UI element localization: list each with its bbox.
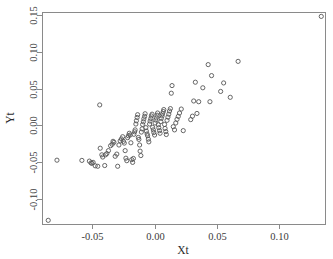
- data-point: [80, 158, 84, 162]
- y-tick-label: -0.05: [28, 152, 39, 174]
- data-point: [147, 140, 151, 144]
- data-point: [181, 129, 185, 133]
- x-tick-label: 0.10: [270, 231, 288, 242]
- data-point: [169, 91, 173, 95]
- plot-canvas: -0.050.000.050.10-0.10-0.050.000.050.100…: [0, 0, 333, 259]
- x-axis-title: Xt: [177, 244, 189, 256]
- data-point: [228, 95, 232, 99]
- ticks-group: -0.050.000.050.10-0.10-0.050.000.050.100…: [28, 6, 289, 242]
- data-point: [170, 83, 174, 87]
- data-point: [219, 89, 223, 93]
- y-tick-label: 0.05: [28, 80, 39, 98]
- data-point: [103, 163, 107, 167]
- data-point: [179, 107, 183, 111]
- data-point: [116, 164, 120, 168]
- data-point: [138, 143, 142, 147]
- data-point: [201, 86, 205, 90]
- data-point: [46, 218, 50, 222]
- data-point: [138, 149, 142, 153]
- data-point: [206, 63, 210, 67]
- data-point: [319, 14, 323, 18]
- data-point: [195, 111, 199, 115]
- data-point: [208, 100, 212, 104]
- y-tick-label: 0.00: [28, 116, 39, 134]
- data-point: [129, 141, 133, 145]
- data-point: [222, 81, 226, 85]
- data-point: [236, 59, 240, 63]
- data-point: [55, 158, 59, 162]
- data-point: [117, 143, 121, 147]
- data-points-group: [46, 14, 323, 222]
- data-point: [152, 133, 156, 137]
- data-point: [158, 131, 162, 135]
- data-point: [136, 113, 140, 117]
- data-point: [98, 103, 102, 107]
- data-point: [123, 149, 127, 153]
- data-point: [98, 146, 102, 150]
- data-point: [164, 132, 168, 136]
- x-tick-label: 0.05: [208, 231, 226, 242]
- scatter-plot-figure: -0.050.000.050.10-0.10-0.050.000.050.100…: [0, 0, 333, 259]
- data-point: [139, 153, 143, 157]
- axes-group: [43, 13, 326, 225]
- data-point: [143, 112, 147, 116]
- plot-frame: [43, 13, 326, 225]
- y-tick-label: 0.10: [28, 43, 39, 61]
- y-tick-label: 0.15: [28, 6, 39, 24]
- x-tick-label: 0.00: [146, 231, 164, 242]
- data-point: [190, 114, 194, 118]
- y-axis-title: Yt: [4, 111, 16, 123]
- data-point: [124, 156, 128, 160]
- data-point: [157, 126, 161, 130]
- data-point: [192, 99, 196, 103]
- x-tick-label: -0.05: [82, 231, 104, 242]
- data-point: [197, 100, 201, 104]
- y-tick-label: -0.10: [28, 189, 39, 211]
- data-point: [209, 74, 213, 78]
- data-point: [125, 159, 129, 163]
- data-point: [193, 80, 197, 84]
